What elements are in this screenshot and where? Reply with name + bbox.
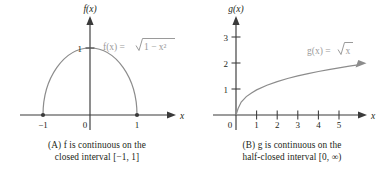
- caption-a-line-2: closed interval [−1, 1]: [0, 151, 194, 163]
- formula-lhs-a: f(x) =: [103, 42, 125, 53]
- formula-lhs-b: g(x) =: [307, 46, 331, 57]
- x-axis-arrow-a: [167, 111, 176, 118]
- caption-a-line-1: (A) f is continuous on the: [0, 139, 194, 151]
- y-axis-arrow-a: [86, 16, 93, 25]
- x-tick-label-5-b: 5: [337, 120, 342, 130]
- x-tick-label-3-b: 3: [296, 120, 301, 130]
- x-axis-arrow-b: [358, 111, 367, 118]
- x-tick-label-neg1-a: −1: [38, 120, 48, 130]
- y-axis-label-b: g(x): [228, 4, 243, 15]
- caption-b-line-1: (B) g is continuous on the: [195, 139, 389, 151]
- y-axis-label-a: f(x): [83, 4, 96, 15]
- formula-label-a: f(x) = 1 − x²: [103, 39, 175, 54]
- x-axis-label-a: x: [179, 111, 185, 121]
- y-tick-label-3-b: 3: [224, 33, 229, 43]
- formula-label-b: g(x) = x: [307, 43, 353, 58]
- caption-a: (A) f is continuous on the closed interv…: [0, 139, 194, 164]
- curve-arrow-b: [356, 60, 367, 68]
- y-tick-label-1-a: 1: [78, 44, 83, 54]
- x-tick-label-1-a: 1: [135, 120, 140, 130]
- origin-label-b: 0: [228, 120, 233, 130]
- x-axis-label-b: x: [370, 111, 376, 121]
- formula-radicand-b: x: [346, 46, 351, 56]
- x-tick-label-1-b: 1: [254, 120, 259, 130]
- x-tick-label-4-b: 4: [316, 120, 321, 130]
- panel-b-sqrt: 1 2 3 0 1 2 3 4 5 g(x) x g(x) = x (B) g …: [195, 0, 389, 185]
- formula-radicand-a: 1 − x²: [144, 42, 167, 52]
- x-tick-label-0-a: 0: [83, 120, 88, 130]
- y-tick-label-1-b: 1: [224, 85, 229, 95]
- panel-a-semicircle: 1 −1 0 1 f(x) x f(x) = 1 − x² (A) f is c…: [0, 0, 194, 185]
- plot-b: 1 2 3 0 1 2 3 4 5 g(x) x g(x) = x: [195, 0, 389, 140]
- x-tick-label-2-b: 2: [275, 120, 280, 130]
- y-axis-arrow-b: [232, 16, 239, 25]
- endpoint-dot-left-a: [41, 113, 45, 117]
- y-tick-label-2-b: 2: [224, 59, 229, 69]
- plot-a: 1 −1 0 1 f(x) x f(x) = 1 − x²: [0, 0, 194, 140]
- caption-b: (B) g is continuous on the half-closed i…: [195, 139, 389, 164]
- curve-sqrt-b: [236, 65, 360, 115]
- caption-b-line-2: half-closed interval [0, ∞): [195, 151, 389, 163]
- endpoint-dot-right-a: [135, 113, 139, 117]
